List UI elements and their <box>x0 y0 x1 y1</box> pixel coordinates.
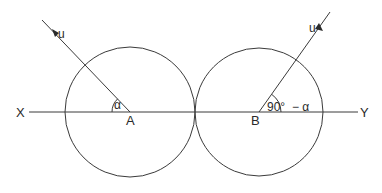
label-velocity-u-left: u <box>58 27 65 41</box>
diagram-svg: X Y A B u u α 90° − α <box>0 0 382 193</box>
label-point-a: A <box>126 113 135 128</box>
label-x: X <box>16 105 25 120</box>
label-velocity-u-right: u <box>309 21 316 35</box>
label-angle-minus-alpha: − α <box>292 100 309 114</box>
label-y: Y <box>360 105 369 120</box>
diagram-canvas: X Y A B u u α 90° − α <box>0 0 382 193</box>
label-point-b: B <box>251 113 260 128</box>
label-angle-90: 90° <box>267 100 285 114</box>
label-angle-alpha: α <box>114 98 121 112</box>
